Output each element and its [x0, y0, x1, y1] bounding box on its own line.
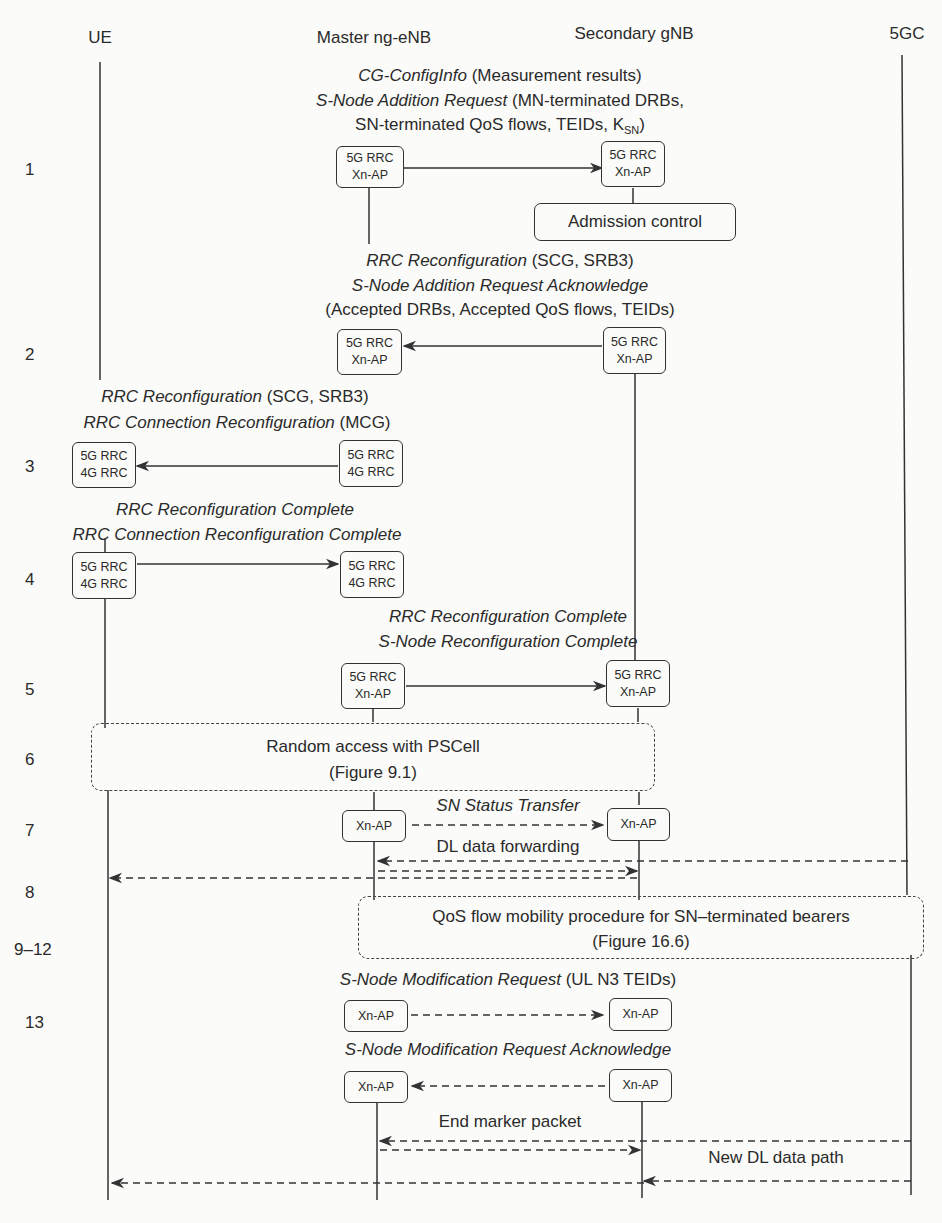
protocol-box: 5G RRCXn-AP	[601, 141, 665, 187]
step-number: 5	[25, 680, 34, 700]
protocol-box: 5G RRC4G RRC	[72, 442, 136, 488]
data-forwarding-label: DL data forwarding	[436, 837, 579, 857]
message-label: RRC Reconfiguration (SCG, SRB3)	[366, 251, 633, 271]
protocol-box: Xn-AP	[609, 1069, 672, 1102]
step-number: 13	[25, 1013, 44, 1033]
procedure-label: Random access with PSCell	[266, 737, 480, 757]
protocol-box: Xn-AP	[344, 1000, 408, 1032]
admission-control-box: Admission control	[534, 203, 736, 241]
protocol-box: 5G RRCXn-AP	[336, 146, 404, 188]
protocol-box: Xn-AP	[607, 808, 670, 841]
participant-secondary-gnb: Secondary gNB	[574, 24, 693, 44]
message-label: CG-ConfigInfo (Measurement results)	[358, 66, 641, 86]
procedure-reference: (Figure 16.6)	[592, 932, 689, 952]
protocol-box: 5G RRCXn-AP	[606, 660, 670, 707]
step-number: 2	[25, 345, 34, 365]
protocol-box: 5G RRCXn-AP	[341, 663, 405, 709]
message-label: SN-terminated QoS flows, TEIDs, KSN)	[355, 115, 645, 140]
end-marker-label: End marker packet	[439, 1112, 582, 1132]
protocol-box: 5G RRCXn-AP	[603, 327, 666, 374]
message-label: S-Node Modification Request Acknowledge	[345, 1040, 671, 1060]
message-label: RRC Connection Reconfiguration (MCG)	[83, 413, 390, 433]
message-label: S-Node Modification Request (UL N3 TEIDs…	[340, 970, 676, 990]
participant-ue: UE	[88, 28, 112, 48]
protocol-box: 5G RRC4G RRC	[340, 551, 404, 598]
step-number: 1	[25, 160, 34, 180]
step-number: 8	[25, 883, 34, 903]
message-label: RRC Reconfiguration Complete	[116, 500, 354, 520]
sequence-diagram: UE Master ng-eNB Secondary gNB 5GC 1 2 3…	[0, 0, 942, 1223]
procedure-label: QoS flow mobility procedure for SN–termi…	[432, 907, 850, 927]
protocol-box: 5G RRC4G RRC	[72, 552, 136, 599]
message-label: RRC Connection Reconfiguration Complete	[73, 525, 402, 545]
participant-5gc: 5GC	[890, 24, 925, 44]
protocol-box: Xn-AP	[342, 810, 406, 842]
protocol-box: Xn-AP	[344, 1071, 408, 1103]
participant-master-ng-enb: Master ng-eNB	[317, 28, 431, 48]
protocol-box: 5G RRCXn-AP	[337, 329, 402, 375]
step-number: 4	[25, 570, 34, 590]
message-label: RRC Reconfiguration (SCG, SRB3)	[101, 387, 368, 407]
protocol-box: 5G RRC4G RRC	[339, 440, 403, 487]
step-number: 3	[25, 457, 34, 477]
step-number: 7	[25, 821, 34, 841]
message-label: SN Status Transfer	[436, 796, 579, 816]
message-label: S-Node Reconfiguration Complete	[379, 632, 638, 652]
message-label: RRC Reconfiguration Complete	[389, 607, 627, 627]
message-label: S-Node Addition Request Acknowledge	[352, 276, 648, 296]
step-number: 9–12	[14, 940, 52, 960]
new-dl-path-label: New DL data path	[708, 1148, 843, 1168]
message-label: S-Node Addition Request (MN-terminated D…	[316, 91, 684, 111]
step-number: 6	[25, 750, 34, 770]
message-label: (Accepted DRBs, Accepted QoS flows, TEID…	[325, 300, 674, 320]
protocol-box: Xn-AP	[609, 998, 672, 1031]
procedure-reference: (Figure 9.1)	[329, 763, 417, 783]
